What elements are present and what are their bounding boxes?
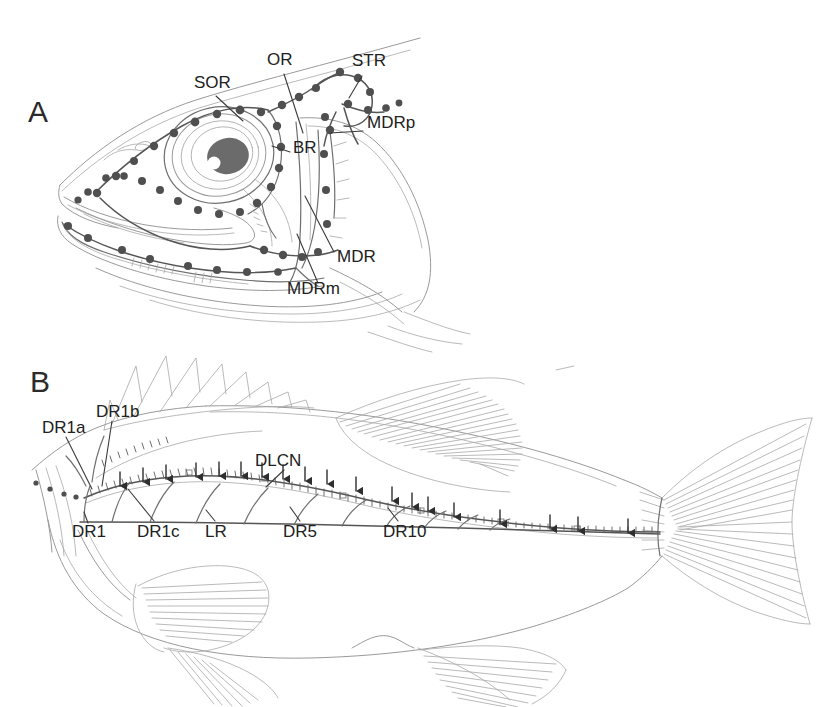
label-dr1b: DR1b bbox=[96, 403, 139, 420]
label-dr1c: DR1c bbox=[137, 523, 180, 540]
label-or: OR bbox=[267, 51, 293, 68]
figure-root: A B .ln { fill:none; stroke:#9a9a9a; str… bbox=[0, 0, 824, 707]
panel-b-letter: B bbox=[30, 365, 51, 399]
label-dr1a: DR1a bbox=[42, 419, 85, 436]
label-mdrp: MDRp bbox=[367, 114, 415, 131]
label-br: BR bbox=[293, 139, 317, 156]
label-mdrm: MDRm bbox=[287, 280, 340, 297]
label-str: STR bbox=[352, 52, 386, 69]
panel-a: A bbox=[0, 0, 824, 345]
label-mdr: MDR bbox=[337, 248, 376, 265]
label-lr: LR bbox=[205, 523, 227, 540]
panel-a-letter: A bbox=[28, 95, 49, 129]
label-dlcn: DLCN bbox=[255, 452, 301, 469]
label-dr5: DR5 bbox=[283, 523, 317, 540]
label-sor: SOR bbox=[194, 74, 231, 91]
label-dr10: DR10 bbox=[383, 523, 426, 540]
label-dr1: DR1 bbox=[72, 523, 106, 540]
